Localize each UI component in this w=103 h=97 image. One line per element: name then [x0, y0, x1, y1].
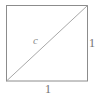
hypotenuse-label-c: c [33, 35, 38, 46]
diagonal-line [7, 6, 88, 82]
geometry-figure: c 1 1 [0, 0, 103, 97]
right-side-label: 1 [89, 37, 95, 49]
bottom-side-label: 1 [45, 83, 51, 95]
figure-canvas [0, 0, 103, 97]
